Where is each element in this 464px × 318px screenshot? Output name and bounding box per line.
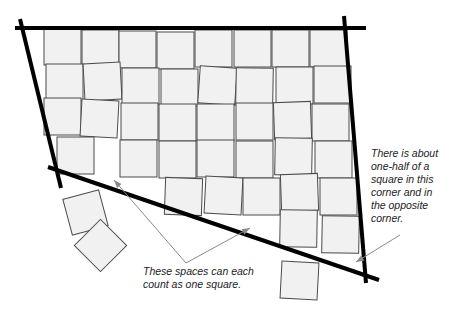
corner-note-line: corner and in: [371, 186, 438, 199]
square-tile: [44, 98, 81, 135]
square-tile: [322, 216, 360, 254]
corner-note-line: the opposite: [371, 199, 438, 212]
square-tile: [236, 103, 273, 140]
corner-note: There is about one-half of a square in t…: [371, 147, 438, 225]
spaces-note: These spaces can each count as one squar…: [143, 265, 254, 291]
square-tile: [197, 140, 234, 177]
square-tile: [120, 140, 157, 177]
square-tile: [83, 62, 122, 101]
square-tile: [280, 173, 318, 211]
square-tile: [46, 64, 83, 101]
square-tile: [44, 28, 81, 65]
square-tile: [198, 66, 237, 105]
square-tile: [122, 68, 159, 105]
corner-note-line: square in this: [371, 173, 438, 186]
pointer-bottom-gap: [186, 228, 250, 263]
square-tile: [82, 30, 119, 67]
square-tile: [275, 138, 313, 176]
square-tile: [236, 141, 273, 178]
square-tile: [204, 176, 243, 215]
square-tile: [197, 104, 234, 141]
square-tile: [161, 69, 198, 106]
spaces-note-line: count as one square.: [143, 278, 254, 291]
square-tile: [159, 104, 196, 141]
square-tile: [315, 141, 352, 178]
square-tile: [157, 32, 194, 69]
square-tile: [310, 30, 347, 67]
square-tile: [57, 137, 94, 174]
corner-note-line: one-half of a: [371, 160, 438, 173]
square-tile: [276, 67, 313, 104]
square-tile: [243, 178, 280, 215]
square-tile: [272, 30, 309, 67]
spaces-note-line: These spaces can each: [143, 265, 254, 278]
square-tile: [195, 30, 232, 67]
square-tile: [280, 210, 318, 248]
square-tile: [80, 99, 119, 138]
corner-note-line: corner.: [371, 212, 438, 225]
square-tile: [312, 104, 349, 141]
square-tile: [159, 141, 196, 178]
square-tile: [273, 101, 311, 139]
square-tile: [121, 103, 158, 140]
square-tile: [234, 30, 271, 67]
square-tile: [280, 261, 319, 300]
square-tile: [236, 68, 274, 106]
square-tile: [119, 31, 156, 68]
corner-note-line: There is about: [371, 147, 438, 160]
square-tile: [314, 66, 351, 103]
square-tile: [320, 178, 357, 215]
